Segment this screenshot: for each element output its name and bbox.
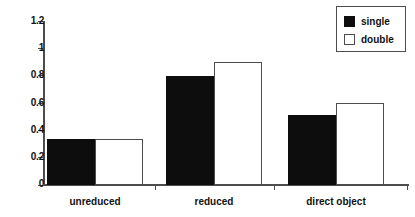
bar-direct-object-double xyxy=(336,103,384,185)
y-tick-label: 0.2 xyxy=(10,152,44,162)
legend-swatch-filled-square-icon xyxy=(344,16,355,27)
legend-label-double: double xyxy=(361,34,394,45)
x-label-unreduced: unreduced xyxy=(45,196,145,208)
x-tick-mark xyxy=(407,184,408,190)
legend-item-single: single xyxy=(344,12,405,30)
legend: single double xyxy=(336,6,406,52)
bar-reduced-single xyxy=(166,76,214,185)
y-tick-label: 0.8 xyxy=(10,70,44,80)
bar-unreduced-single xyxy=(47,139,95,185)
bar-reduced-double xyxy=(214,62,262,185)
x-tick-mark xyxy=(274,184,275,190)
y-tick-label: 1 xyxy=(10,43,44,53)
y-tick-label: 1.2 xyxy=(10,16,44,26)
x-label-direct-object: direct object xyxy=(286,196,386,208)
y-tick-label: 0 xyxy=(10,179,44,189)
legend-label-single: single xyxy=(361,16,390,27)
y-tick-label: 0.6 xyxy=(10,98,44,108)
x-label-reduced: reduced xyxy=(164,196,264,208)
bar-unreduced-double xyxy=(95,139,143,185)
bar-chart: 1.2 1 0.8 0.6 0.4 0.2 0 unreduced reduce… xyxy=(0,0,415,217)
legend-swatch-outlined-square-icon xyxy=(344,34,355,45)
bar-direct-object-single xyxy=(288,115,336,185)
legend-item-double: double xyxy=(344,30,405,48)
x-tick-mark xyxy=(155,184,156,190)
y-tick-label: 0.4 xyxy=(10,125,44,135)
